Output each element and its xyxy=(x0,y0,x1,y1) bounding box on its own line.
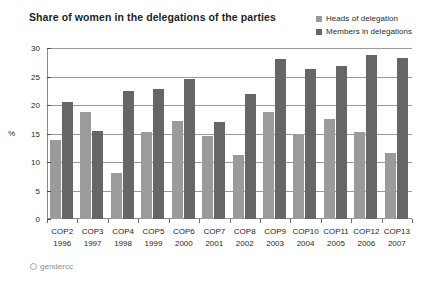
bar[interactable] xyxy=(245,94,256,219)
x-tick-mark xyxy=(382,219,383,223)
y-tick-mark-5 xyxy=(47,191,51,192)
copyright-icon xyxy=(30,263,37,270)
bar-group xyxy=(108,48,138,219)
y-tick-label-10: 10 xyxy=(22,158,40,167)
bars-layer xyxy=(47,48,412,219)
x-tick-mark xyxy=(290,219,291,223)
x-tick-mark xyxy=(108,219,109,223)
bar[interactable] xyxy=(141,132,152,219)
bar[interactable] xyxy=(111,173,122,219)
bar-group xyxy=(138,48,168,219)
legend-item-members-in-delegations[interactable]: Members in delegations xyxy=(316,26,412,37)
y-tick-label-0: 0 xyxy=(22,215,40,224)
x-tick-label-cop: COP13 xyxy=(377,226,417,238)
x-tick-mark xyxy=(138,219,139,223)
bar-group xyxy=(321,48,351,219)
bar[interactable] xyxy=(172,121,183,219)
bar-group xyxy=(351,48,381,219)
bar[interactable] xyxy=(324,119,335,219)
bar[interactable] xyxy=(214,122,225,219)
x-axis-tick-labels: COP21996COP31997COP41998COP51999COP62000… xyxy=(47,226,412,256)
x-tick-label-year: 2007 xyxy=(377,238,417,250)
bar-group xyxy=(260,48,290,219)
legend-swatch-members-in-delegations xyxy=(316,29,322,35)
y-tick-label-15: 15 xyxy=(22,129,40,138)
bar-group xyxy=(47,48,77,219)
y-tick-mark-15 xyxy=(47,134,51,135)
bar[interactable] xyxy=(275,59,286,219)
bar[interactable] xyxy=(385,153,396,219)
bar[interactable] xyxy=(62,102,73,219)
y-tick-mark-30 xyxy=(47,48,51,49)
bar-group xyxy=(199,48,229,219)
bar[interactable] xyxy=(397,58,408,219)
x-tick-mark xyxy=(230,219,231,223)
y-tick-mark-10 xyxy=(47,162,51,163)
bar[interactable] xyxy=(153,89,164,219)
y-tick-mark-20 xyxy=(47,105,51,106)
x-tick-mark xyxy=(199,219,200,223)
y-axis-tick-labels: 051015202530 xyxy=(22,48,40,219)
bar[interactable] xyxy=(336,66,347,219)
bar-group xyxy=(77,48,107,219)
bar-group xyxy=(290,48,320,219)
bar[interactable] xyxy=(354,132,365,219)
legend-item-heads-of-delegation[interactable]: Heads of delegation xyxy=(316,13,412,24)
bar[interactable] xyxy=(293,135,304,219)
bar[interactable] xyxy=(50,140,61,219)
x-axis-ticks xyxy=(47,219,412,223)
x-tick-mark xyxy=(169,219,170,223)
bar-group xyxy=(382,48,412,219)
y-axis-title: % xyxy=(8,129,15,138)
legend-label-heads-of-delegation: Heads of delegation xyxy=(326,14,398,23)
chart-legend: Heads of delegation Members in delegatio… xyxy=(316,13,412,39)
x-tick-mark xyxy=(412,219,413,223)
bar[interactable] xyxy=(92,131,103,219)
y-tick-label-25: 25 xyxy=(22,72,40,81)
legend-label-members-in-delegations: Members in delegations xyxy=(326,27,412,36)
bar[interactable] xyxy=(263,112,274,219)
credit-label: gendercc xyxy=(40,262,73,271)
y-tick-label-20: 20 xyxy=(22,101,40,110)
y-tick-mark-0 xyxy=(47,219,51,220)
bar[interactable] xyxy=(202,136,213,219)
x-tick-mark xyxy=(321,219,322,223)
bar[interactable] xyxy=(80,112,91,219)
y-tick-mark-25 xyxy=(47,77,51,78)
bar[interactable] xyxy=(233,155,244,219)
bar[interactable] xyxy=(123,91,134,219)
x-tick-mark xyxy=(77,219,78,223)
x-tick-mark xyxy=(260,219,261,223)
x-tick-label: COP132007 xyxy=(377,226,417,250)
credit-attribution: gendercc xyxy=(30,262,73,271)
legend-swatch-heads-of-delegation xyxy=(316,16,322,22)
bar[interactable] xyxy=(305,69,316,219)
x-tick-mark xyxy=(351,219,352,223)
bar[interactable] xyxy=(184,79,195,219)
bar-group xyxy=(230,48,260,219)
bar-group xyxy=(169,48,199,219)
y-tick-label-30: 30 xyxy=(22,44,40,53)
bar[interactable] xyxy=(366,55,377,219)
chart-title: Share of women in the delegations of the… xyxy=(29,11,276,23)
y-tick-label-5: 5 xyxy=(22,186,40,195)
